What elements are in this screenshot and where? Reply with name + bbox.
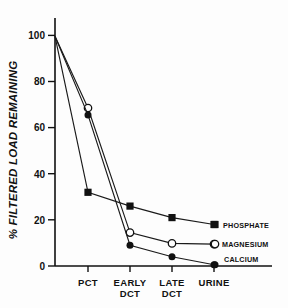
x-axis-ticks <box>88 266 214 272</box>
legend-marker-calcium-icon <box>212 261 219 268</box>
series-phosphate-line <box>55 36 214 224</box>
legend-marker-magnesium-icon <box>211 240 218 247</box>
series-magnesium <box>55 36 218 248</box>
y-tick-label-60: 60 <box>34 122 46 133</box>
legend-label-phosphate: PHOSPHATE <box>223 221 269 230</box>
data-point-phosphate-early-dct <box>126 203 133 210</box>
legend-entry-phosphate[interactable]: PHOSPHATE <box>211 221 269 230</box>
legend: PHOSPHATE MAGNESIUM CALCIUM <box>211 221 269 269</box>
legend-marker-phosphate-icon <box>211 221 218 228</box>
series-phosphate <box>55 36 218 228</box>
series-magnesium-line <box>55 36 214 244</box>
y-axis-title: % FILTERED LOAD REMAINING <box>7 61 19 240</box>
legend-label-calcium: CALCIUM <box>224 255 259 264</box>
y-tick-label-80: 80 <box>34 76 46 87</box>
data-point-calcium-pct <box>85 111 92 118</box>
data-point-calcium-early-dct <box>127 242 134 249</box>
legend-entry-magnesium[interactable]: MAGNESIUM <box>211 240 268 249</box>
y-tick-label-0: 0 <box>39 261 45 272</box>
data-point-calcium-late-dct <box>169 253 176 260</box>
x-tick-label-urine: URINE <box>198 277 229 288</box>
x-tick-label-late-dct-line1: LATE <box>159 277 184 288</box>
data-point-phosphate-late-dct <box>168 214 175 221</box>
legend-label-magnesium: MAGNESIUM <box>222 240 269 249</box>
y-tick-label-100: 100 <box>28 30 45 41</box>
x-tick-label-early-dct-line1: EARLY <box>114 277 147 288</box>
data-point-magnesium-early-dct <box>126 229 133 236</box>
y-tick-label-20: 20 <box>34 215 46 226</box>
y-tick-label-40: 40 <box>34 169 46 180</box>
x-tick-label-early-dct-line2: DCT <box>120 288 140 299</box>
x-tick-label-late-dct-line2: DCT <box>162 288 182 299</box>
data-point-phosphate-pct <box>84 189 91 196</box>
data-point-magnesium-late-dct <box>168 240 175 247</box>
x-tick-label-pct: PCT <box>78 277 98 288</box>
line-chart: % FILTERED LOAD REMAINING 100 80 60 40 2… <box>0 0 288 308</box>
chart-figure: % FILTERED LOAD REMAINING 100 80 60 40 2… <box>0 0 288 308</box>
y-axis-ticks <box>48 35 55 266</box>
